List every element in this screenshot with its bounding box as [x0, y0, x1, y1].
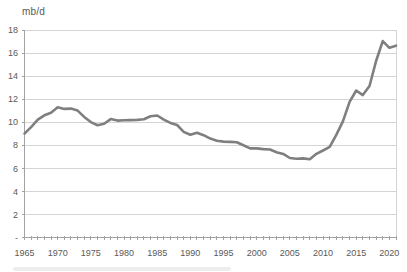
x-axis-tick-label: 1975	[81, 248, 101, 258]
y-axis-tick-label: 14	[8, 71, 18, 81]
chart-canvas: 18161412108642-1965197019751980198519901…	[0, 0, 407, 272]
y-axis-tick-label: 10	[8, 117, 18, 127]
y-axis-tick-label: -	[15, 233, 18, 243]
x-axis-tick-label: 2010	[313, 248, 333, 258]
x-axis-tick-label: 2020	[379, 248, 399, 258]
x-axis-tick-label: 2000	[247, 248, 267, 258]
y-axis-tick-label: 4	[13, 187, 18, 197]
data-line-oil-production	[25, 41, 397, 159]
line-chart-figure: mb/d 18161412108642-19651970197519801985…	[0, 0, 407, 272]
x-axis-tick-label: 1985	[147, 248, 167, 258]
cropped-caption-remnant	[13, 267, 231, 271]
x-axis-tick-label: 1995	[214, 248, 234, 258]
x-axis-tick-label: 1965	[14, 248, 34, 258]
x-axis-tick-label: 2005	[280, 248, 300, 258]
y-axis-tick-label: 18	[8, 25, 18, 35]
y-axis-tick-label: 8	[13, 140, 18, 150]
y-axis-tick-label: 12	[8, 94, 18, 104]
x-axis-tick-label: 1980	[114, 248, 134, 258]
y-axis-tick-label: 16	[8, 48, 18, 58]
y-axis-tick-label: 2	[13, 210, 18, 220]
x-axis-tick-label: 2015	[346, 248, 366, 258]
y-axis-tick-label: 6	[13, 164, 18, 174]
x-axis-tick-label: 1970	[48, 248, 68, 258]
x-axis-tick-label: 1990	[180, 248, 200, 258]
